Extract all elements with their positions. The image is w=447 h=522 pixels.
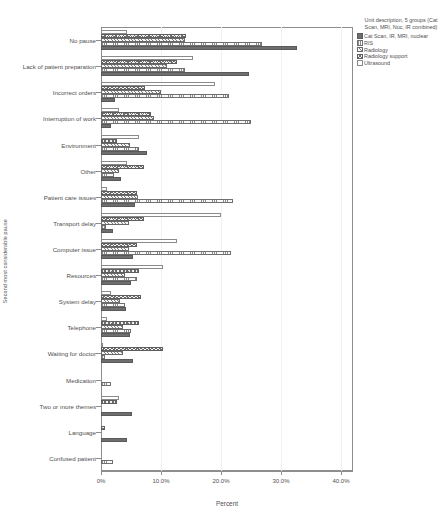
bar <box>101 426 105 430</box>
bar <box>101 255 133 259</box>
legend-item: Ultrasound <box>357 60 445 66</box>
bar <box>101 400 117 404</box>
legend-label: Ultrasound <box>364 60 390 66</box>
category-label: Incorrect orders <box>8 89 96 96</box>
category-label: Other <box>8 167 96 174</box>
bar <box>101 359 133 363</box>
x-axis-tick-label: 20.0% <box>212 478 229 484</box>
legend-swatch <box>357 54 363 60</box>
y-axis-tick <box>96 432 101 433</box>
bar <box>101 333 130 337</box>
x-axis-tick-label: 0% <box>97 478 106 484</box>
bar <box>101 98 115 102</box>
category-label: Confused patient <box>8 454 96 461</box>
bar <box>101 412 132 416</box>
category-label: Computer issue <box>8 246 96 253</box>
category-label: Resources <box>8 272 96 279</box>
legend-label: Radiology <box>364 47 388 53</box>
bar <box>101 151 147 155</box>
category-label: Medication <box>8 376 96 383</box>
category-label: Waiting for doctor <box>8 350 96 357</box>
category-label: Telephone <box>8 324 96 331</box>
category-label: Lack of patient preparation <box>8 63 96 70</box>
category-label: No pause <box>8 37 96 44</box>
category-label: System delay <box>8 298 96 305</box>
category-label: Two or more themes <box>8 402 96 409</box>
legend-swatch <box>357 40 363 46</box>
bar <box>101 177 121 181</box>
legend-item: Cat Scan, IR, MRI, nuclear <box>357 33 445 39</box>
bar <box>101 382 111 386</box>
gridline <box>341 27 342 471</box>
x-axis-tick-label: 30.0% <box>272 478 289 484</box>
x-axis-title: Percent <box>101 500 353 507</box>
legend-label: Radiology support <box>364 53 407 59</box>
bar <box>101 307 126 311</box>
x-axis-tick-label: 40.0% <box>332 478 349 484</box>
legend-item: RIS <box>357 40 445 46</box>
legend-items: Cat Scan, IR, MRI, nuclearRISRadiologyRa… <box>357 33 445 66</box>
bar <box>101 203 135 207</box>
y-axis-title-text: Second most considerable pause <box>2 219 8 303</box>
legend-swatch <box>357 60 363 66</box>
legend-item: Radiology support <box>357 53 445 59</box>
legend-swatch <box>357 33 363 39</box>
gridline <box>281 27 282 471</box>
legend-item: Radiology <box>357 47 445 53</box>
bar <box>101 438 127 442</box>
category-label: Interruption of work <box>8 115 96 122</box>
bar <box>101 72 249 76</box>
category-label: Transport delay <box>8 219 96 226</box>
category-label: Environment <box>8 141 96 148</box>
bar-chart: Second most considerable pause 0%10.0%20… <box>0 0 447 522</box>
legend-title: Unit description, 5 groups (Cat Scan, MR… <box>357 17 445 31</box>
bar <box>101 46 297 50</box>
y-axis-title: Second most considerable pause <box>0 0 12 522</box>
bar <box>101 124 111 128</box>
category-label: Language <box>8 428 96 435</box>
y-axis-tick <box>96 380 101 381</box>
y-axis-tick <box>96 406 101 407</box>
x-axis-line <box>101 471 353 472</box>
bar <box>101 281 131 285</box>
category-label: Patient care issues <box>8 193 96 200</box>
bar <box>101 229 113 233</box>
legend-label: Cat Scan, IR, MRI, nuclear <box>364 33 428 39</box>
y-axis-tick <box>96 458 101 459</box>
x-axis-tick-label: 10.0% <box>152 478 169 484</box>
legend: Unit description, 5 groups (Cat Scan, MR… <box>357 17 445 67</box>
bar <box>101 94 229 98</box>
legend-label: RIS <box>364 40 373 46</box>
legend-swatch <box>357 47 363 53</box>
bar <box>101 120 251 124</box>
bar <box>101 460 113 464</box>
